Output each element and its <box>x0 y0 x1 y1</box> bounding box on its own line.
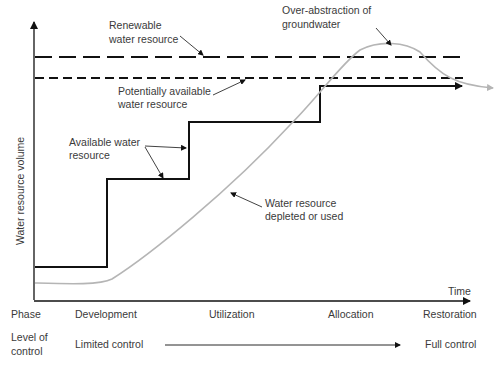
phase-restoration: Restoration <box>423 308 477 320</box>
phase-utilization: Utilization <box>209 308 255 320</box>
over-abstraction-label: Over-abstraction of groundwater <box>282 4 374 30</box>
available-pointer-upper <box>145 146 186 148</box>
y-axis-label: Water resource volume <box>14 137 26 245</box>
over-abstraction-pointer <box>376 28 391 45</box>
potentially-available-pointer <box>213 80 245 95</box>
available-resource-step-line <box>35 86 462 267</box>
phase-development: Development <box>75 308 137 320</box>
phase-allocation: Allocation <box>328 308 374 320</box>
x-axis-label: Time <box>448 285 471 297</box>
available-pointer-lower <box>145 147 163 178</box>
depleted-pointer <box>231 193 262 207</box>
control-row-label: Level of control <box>11 331 51 357</box>
control-end-label: Full control <box>425 338 476 350</box>
phase-row-label: Phase <box>11 308 41 320</box>
control-start-label: Limited control <box>75 338 143 350</box>
water-resource-diagram: Renewable water resource Potentially ava… <box>0 0 503 373</box>
depleted-label: Water resource depleted or used <box>265 197 343 222</box>
available-label: Available water resource <box>69 136 143 161</box>
potentially-available-label: Potentially available water resource <box>117 85 214 110</box>
renewable-label: Renewable water resource <box>108 19 179 45</box>
depleted-resource-curve <box>35 43 493 283</box>
renewable-pointer <box>180 36 203 55</box>
